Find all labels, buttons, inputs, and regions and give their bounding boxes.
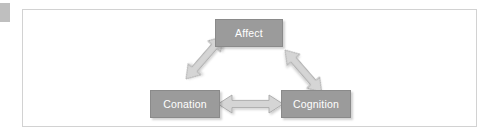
node-affect[interactable]: Affect <box>215 19 283 47</box>
diagram-page: Affect Conation Cognition <box>0 0 500 138</box>
node-affect-label: Affect <box>235 27 263 39</box>
node-cognition-label: Cognition <box>293 98 339 110</box>
connector-conation-cognition <box>218 95 283 113</box>
node-conation[interactable]: Conation <box>150 90 220 118</box>
node-cognition[interactable]: Cognition <box>281 90 351 118</box>
node-conation-label: Conation <box>163 98 207 110</box>
